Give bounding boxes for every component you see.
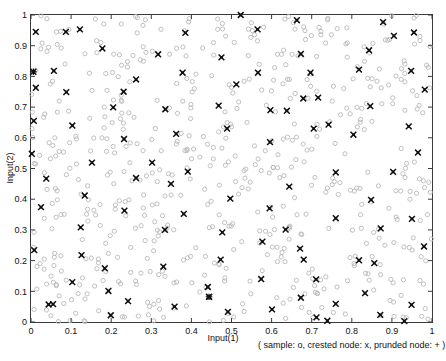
x-tick-label: 0.3 bbox=[145, 326, 158, 336]
y-tick-label: 0.1 bbox=[14, 287, 27, 297]
y-tick-label: 0.3 bbox=[14, 225, 27, 235]
y-tick-label: 0 bbox=[22, 317, 27, 327]
y-tick-label: 0.7 bbox=[14, 102, 27, 112]
x-tick-label: 0.8 bbox=[346, 326, 359, 336]
legend-caption: ( sample: o, crested node: x, prunded no… bbox=[258, 340, 445, 350]
plot-frame bbox=[31, 15, 433, 323]
y-tick-label: 0.4 bbox=[14, 194, 27, 204]
x-tick-label: 0.2 bbox=[105, 326, 118, 336]
x-tick-label: 0.6 bbox=[265, 326, 278, 336]
x-tick-label: 0.7 bbox=[305, 326, 318, 336]
x-axis-title: Input(1) bbox=[207, 333, 238, 343]
y-tick-label: 0.8 bbox=[14, 72, 27, 82]
x-tick-label: 0 bbox=[28, 326, 33, 336]
x-tick-label: 0.4 bbox=[185, 326, 198, 336]
scatter-plot: 00.10.20.30.40.50.60.70.80.91 00.10.20.3… bbox=[0, 0, 446, 361]
y-tick-label: 0.2 bbox=[14, 256, 27, 266]
figure-canvas: 00.10.20.30.40.50.60.70.80.91 00.10.20.3… bbox=[0, 0, 446, 361]
x-tick-label: 0.9 bbox=[386, 326, 399, 336]
y-tick-label: 1 bbox=[22, 10, 27, 20]
y-axis-title: Input(2) bbox=[5, 152, 15, 183]
x-tick-label: 1 bbox=[429, 326, 434, 336]
x-tick-label: 0.1 bbox=[65, 326, 78, 336]
y-tick-label: 0.9 bbox=[14, 41, 27, 51]
y-tick-label: 0.6 bbox=[14, 133, 27, 143]
y-tick-label: 0.5 bbox=[14, 164, 27, 174]
